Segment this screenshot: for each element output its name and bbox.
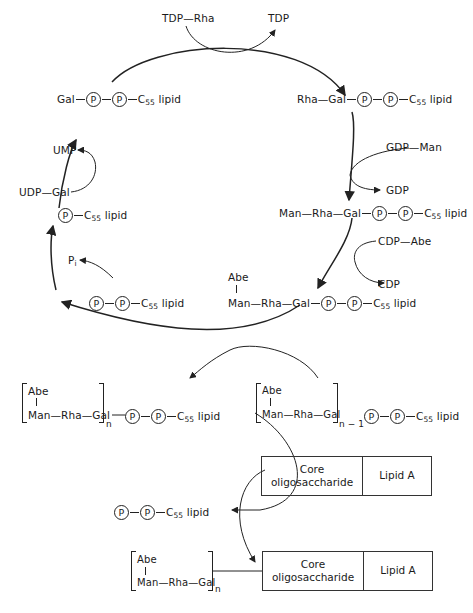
product-core-oligosaccharide-box: Core oligosaccharide — [262, 551, 364, 591]
polymer-left-subscript: n — [106, 420, 112, 429]
phosphate-icon: P — [383, 92, 398, 107]
cdp-label: CDP — [378, 279, 400, 290]
phosphate-icon: P — [321, 296, 336, 311]
phosphate-icon: P — [125, 409, 140, 424]
polymer-right-subscript: n − 1 — [339, 420, 364, 429]
polymer-right-pp-lipid: PPC55 lipid — [364, 409, 459, 424]
phosphate-icon: P — [398, 206, 413, 221]
phosphate-icon: P — [151, 409, 166, 424]
released-pp-lipid: PPC55 lipid — [114, 505, 209, 520]
product-lipid-a-box: Lipid A — [363, 551, 433, 591]
tdp-label: TDP — [268, 13, 289, 24]
abe-branch-label: Abe — [228, 272, 249, 283]
phosphate-icon: P — [89, 296, 104, 311]
cycle-arc-right-2 — [318, 218, 352, 288]
gdp-man-label: GDP—Man — [386, 142, 442, 153]
polymer-left-pp-lipid: PPC55 lipid — [125, 409, 220, 424]
polymer-left-chain: Man—Rha—Gal — [28, 410, 110, 421]
product-chain: Man—Rha—Gal — [137, 578, 215, 588]
p-lipid: PC55 lipid — [58, 208, 127, 223]
tdp-rha-label: TDP—Rha — [162, 13, 214, 24]
ump-label: UMP — [53, 145, 76, 156]
phosphate-icon: P — [112, 92, 127, 107]
cycle-arc-right-1 — [349, 112, 354, 200]
acceptor-lipid-a-box: Lipid A — [362, 456, 432, 496]
abe-man-rha-gal-pp-lipid: Man—Rha—GalPPC55 lipid — [228, 296, 416, 311]
cycle-arc-left-1 — [51, 226, 56, 290]
phosphate-icon: P — [140, 505, 155, 520]
gal-pp-lipid: GalPPC55 lipid — [57, 92, 181, 107]
gdp-label: GDP — [386, 185, 409, 196]
pi-label: Pi — [68, 255, 77, 268]
phosphate-icon: P — [114, 505, 129, 520]
phosphate-icon: P — [115, 296, 130, 311]
phosphate-icon: P — [58, 208, 73, 223]
phosphate-icon: P — [372, 206, 387, 221]
acceptor-core-oligosaccharide-box: Core oligosaccharide — [261, 456, 363, 496]
udp-gal-label: UDP—Gal — [19, 187, 70, 198]
cycle-arc-top — [112, 48, 345, 95]
phosphate-icon: P — [390, 409, 405, 424]
phosphate-icon: P — [347, 296, 362, 311]
cdp-abe-label: CDP—Abe — [378, 236, 431, 247]
pp-lipid: PPC55 lipid — [89, 296, 184, 311]
rha-gal-pp-lipid: Rha—GalPPC55 lipid — [297, 92, 452, 107]
phosphate-icon: P — [86, 92, 101, 107]
product-subscript: n — [215, 585, 221, 594]
polymer-right-branch: Abe — [262, 386, 282, 396]
phosphate-icon: P — [357, 92, 372, 107]
product-branch: Abe — [137, 555, 157, 565]
man-rha-gal-pp-lipid: Man—Rha—GalPPC55 lipid — [279, 206, 467, 221]
polymer-right-chain: Man—Rha—Gal — [262, 410, 340, 420]
phosphate-icon: P — [364, 409, 379, 424]
polymer-left-branch: Abe — [28, 386, 49, 397]
